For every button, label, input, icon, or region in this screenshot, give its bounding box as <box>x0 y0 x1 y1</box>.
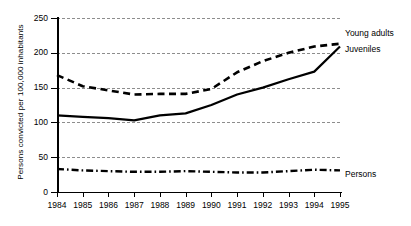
series-line-young-adults <box>57 44 340 95</box>
series-label-persons: Persons <box>345 169 376 179</box>
line-chart: Persons convicted per 100,000 inhabitant… <box>0 0 411 226</box>
series-label-juveniles: Juveniles <box>345 44 380 54</box>
series-label-young-adults: Young adults <box>345 28 394 38</box>
series-line-juveniles <box>57 47 340 121</box>
series-line-persons <box>57 169 340 172</box>
